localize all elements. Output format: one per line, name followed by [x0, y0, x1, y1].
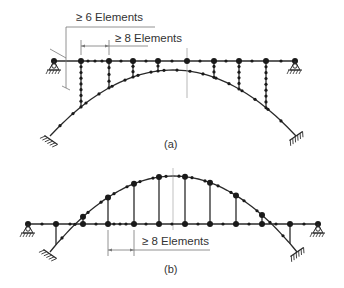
subnode-icon: [198, 59, 201, 62]
caption-b: (b): [164, 263, 177, 275]
subnode-icon: [94, 222, 97, 225]
subnode-icon: [40, 222, 43, 225]
subnode-icon: [107, 73, 110, 76]
subnode-icon: [79, 77, 82, 80]
subnode-icon: [266, 108, 269, 111]
subnode-icon: [170, 59, 173, 62]
subnode-icon: [274, 222, 277, 225]
hatch: [313, 233, 315, 237]
subnode-icon: [237, 87, 240, 90]
subnode-icon: [247, 222, 250, 225]
node-icon: [259, 221, 265, 227]
fixed-support-icon: [289, 247, 307, 261]
hatch: [299, 70, 301, 74]
subnode-icon: [221, 222, 224, 225]
subnode-icon: [264, 94, 267, 97]
node-icon: [53, 221, 59, 227]
node-icon: [259, 212, 265, 218]
hatch: [316, 233, 318, 237]
node-icon: [233, 221, 239, 227]
subnode-icon: [227, 82, 230, 85]
node-icon: [211, 58, 217, 64]
subnode-icon: [123, 78, 126, 81]
hatch: [29, 233, 31, 237]
subnode-icon: [79, 71, 82, 74]
panel-b: [20, 168, 325, 263]
hatch: [49, 70, 51, 74]
node-icon: [131, 181, 137, 187]
node-icon: [155, 58, 161, 64]
subnode-icon: [281, 234, 284, 237]
node-icon: [207, 180, 213, 186]
subnode-icon: [279, 119, 282, 122]
subnode-icon: [107, 80, 110, 83]
subnode-icon: [264, 77, 267, 80]
arrow-head: [108, 248, 112, 251]
subnode-icon: [136, 74, 139, 77]
hatch: [20, 233, 22, 237]
subnode-icon: [125, 185, 128, 188]
dim-label-8-elements-b: ≥ 8 Elements: [142, 235, 209, 247]
fixed-support-icon: [40, 134, 58, 148]
hatch: [58, 70, 60, 74]
subnode-icon: [84, 101, 87, 104]
dim-label-6-elements: ≥ 6 Elements: [76, 11, 143, 23]
subnode-icon: [71, 112, 74, 115]
subnode-icon: [79, 88, 82, 91]
subnode-icon: [170, 222, 173, 225]
subnode-icon: [107, 86, 110, 89]
node-icon: [263, 58, 269, 64]
subnode-icon: [131, 75, 134, 78]
subnode-icon: [164, 175, 167, 178]
hatch: [322, 233, 324, 237]
subnode-icon: [58, 124, 61, 127]
subnode-icon: [212, 70, 215, 73]
arrow-head: [130, 248, 134, 251]
subnode-icon: [112, 192, 115, 195]
subnode-icon: [188, 70, 191, 73]
hatch: [310, 233, 312, 237]
subnode-icon: [79, 100, 82, 103]
subnode-icon: [216, 184, 219, 187]
dim-label-8-elements-a: ≥ 8 Elements: [115, 32, 182, 44]
hatch: [296, 70, 298, 74]
subnode-icon: [264, 65, 267, 68]
subnode-icon: [253, 98, 256, 101]
subnode-icon: [68, 222, 71, 225]
subnode-icon: [97, 92, 100, 95]
subnode-icon: [131, 70, 134, 73]
node-icon: [233, 192, 239, 198]
subnode-icon: [93, 59, 96, 62]
caption-a: (a): [164, 138, 177, 150]
hatch: [52, 70, 54, 74]
hatch: [290, 70, 292, 74]
node-icon: [287, 221, 293, 227]
subnode-icon: [242, 199, 245, 202]
node-icon: [236, 58, 242, 64]
subnode-icon: [151, 176, 154, 179]
subnode-icon: [240, 89, 243, 92]
node-icon: [130, 58, 136, 64]
subnode-icon: [60, 236, 63, 239]
hatch: [287, 70, 289, 74]
subnode-icon: [264, 100, 267, 103]
subnode-icon: [79, 105, 82, 108]
subnode-icon: [224, 59, 227, 62]
fixed-support-icon: [288, 131, 306, 145]
hatch: [23, 233, 25, 237]
subnode-icon: [131, 65, 134, 68]
subnode-icon: [203, 179, 206, 182]
node-icon: [182, 221, 188, 227]
subnode-icon: [190, 176, 193, 179]
hatch: [288, 140, 293, 146]
subnode-icon: [264, 71, 267, 74]
node-icon: [207, 221, 213, 227]
subnode-icon: [237, 82, 240, 85]
subnode-icon: [110, 85, 113, 88]
subnode-icon: [229, 191, 232, 194]
subnode-icon: [73, 223, 76, 226]
subnode-icon: [201, 72, 204, 75]
node-icon: [105, 221, 111, 227]
node-icon: [131, 221, 137, 227]
subnode-icon: [237, 76, 240, 79]
